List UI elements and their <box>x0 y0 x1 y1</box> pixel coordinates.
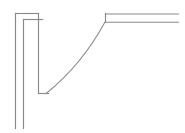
duct-elbow-drawing <box>0 0 185 133</box>
drawing-canvas <box>0 0 185 133</box>
elbow-radius-arc <box>47 22 106 93</box>
